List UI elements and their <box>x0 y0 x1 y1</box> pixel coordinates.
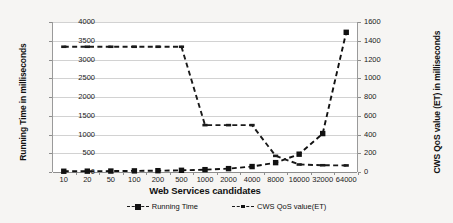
y-axis-right-tick-label: 1200 <box>364 56 404 64</box>
x-axis-tick-label: 4000 <box>244 175 261 184</box>
data-point-square <box>179 168 184 173</box>
x-axis-tick-mark <box>76 172 77 175</box>
x-axis-tick-label: 100 <box>128 175 141 184</box>
x-axis-tick-label: 50 <box>107 175 115 184</box>
y-axis-right-tick-mark <box>358 22 361 23</box>
legend-label: Running Time <box>152 202 198 211</box>
x-axis-tick-mark <box>193 172 194 175</box>
x-axis-tick-label: 1000 <box>197 175 214 184</box>
data-point-square <box>155 168 160 173</box>
data-point-square <box>85 168 90 173</box>
y-axis-right-title: CWS QoS value (ET) in milliseconds <box>432 17 442 187</box>
data-point-dash <box>344 164 349 167</box>
data-point-dash <box>85 45 90 48</box>
data-point-square <box>108 168 113 173</box>
y-axis-right-tick-label: 400 <box>364 131 404 139</box>
data-point-dash <box>273 155 278 158</box>
x-axis-tick-mark <box>358 172 359 175</box>
y-axis-right-tick-label: 1400 <box>364 37 404 45</box>
data-point-dash <box>297 163 302 166</box>
data-point-dash <box>132 45 137 48</box>
x-axis-tick-mark <box>264 172 265 175</box>
data-point-dash <box>202 124 207 127</box>
data-point-dash <box>61 45 66 48</box>
x-axis-tick-label: 32000 <box>312 175 333 184</box>
x-axis-tick-label: 16000 <box>289 175 310 184</box>
y-axis-left-tick-mark <box>49 172 52 173</box>
data-point-square <box>202 167 207 172</box>
x-axis-tick-mark <box>170 172 171 175</box>
y-axis-right-tick-mark <box>358 60 361 61</box>
y-axis-right-tick-mark <box>358 153 361 154</box>
y-axis-left-title: Running Time in milliseconds <box>18 17 28 187</box>
data-point-square <box>226 166 231 171</box>
x-axis-tick-label: 8000 <box>267 175 284 184</box>
data-point-dash <box>249 124 254 127</box>
y-axis-right-tick-label: 200 <box>364 149 404 157</box>
legend-marker-square-icon <box>127 202 149 211</box>
data-point-square <box>296 151 301 156</box>
x-axis-tick-mark <box>123 172 124 175</box>
x-axis-tick-mark <box>217 172 218 175</box>
series-layer <box>52 22 358 172</box>
x-axis-title: Web Services candidates <box>52 185 358 196</box>
y-axis-right-tick-mark <box>358 78 361 79</box>
y-axis-right-tick-label: 0 <box>364 168 404 176</box>
y-axis-right-tick-label: 800 <box>364 93 404 101</box>
x-axis-tick-mark <box>99 172 100 175</box>
series-line <box>64 47 346 166</box>
x-axis-tick-mark <box>146 172 147 175</box>
chart-figure: Running Time in milliseconds CWS QoS val… <box>0 0 453 223</box>
legend-marker-dash-icon <box>232 202 254 211</box>
y-axis-right-tick-mark <box>358 116 361 117</box>
data-point-square <box>61 169 66 174</box>
data-point-square <box>273 160 278 165</box>
x-axis-tick-label: 500 <box>175 175 188 184</box>
y-axis-right-tick-mark <box>358 135 361 136</box>
x-axis-tick-label: 2000 <box>220 175 237 184</box>
data-point-dash <box>320 164 325 167</box>
x-axis-tick-label: 64000 <box>336 175 357 184</box>
chart-legend: Running TimeCWS QoS value(ET) <box>0 202 453 211</box>
data-point-dash <box>108 45 113 48</box>
data-point-dash <box>226 124 231 127</box>
x-axis-tick-mark <box>240 172 241 175</box>
legend-label: CWS QoS value(ET) <box>257 202 326 211</box>
y-axis-right-tick-mark <box>358 41 361 42</box>
y-axis-right-tick-label: 1000 <box>364 74 404 82</box>
y-axis-right-tick-label: 600 <box>364 112 404 120</box>
data-point-square <box>249 164 254 169</box>
series-running-time <box>61 30 349 174</box>
series-line <box>64 32 346 171</box>
x-axis-tick-label: 200 <box>152 175 165 184</box>
y-axis-right-tick-mark <box>358 97 361 98</box>
data-point-dash <box>155 45 160 48</box>
data-point-square <box>320 131 325 136</box>
data-point-square <box>344 30 349 35</box>
x-axis-tick-label: 10 <box>60 175 68 184</box>
y-axis-right-tick-label: 1600 <box>364 18 404 26</box>
data-point-square <box>132 168 137 173</box>
x-axis-tick-label: 20 <box>83 175 91 184</box>
data-point-dash <box>179 45 184 48</box>
legend-item[interactable]: Running Time <box>127 202 198 211</box>
legend-item[interactable]: CWS QoS value(ET) <box>232 202 326 211</box>
